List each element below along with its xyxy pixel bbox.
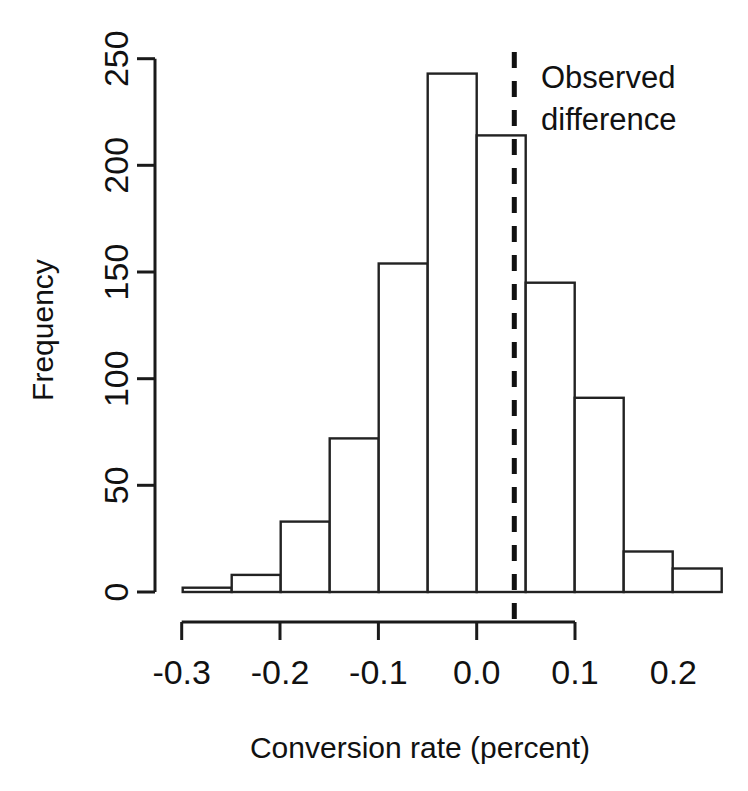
histogram-bar <box>428 74 477 592</box>
histogram-bar <box>624 552 673 593</box>
y-axis: 0 50 100 150 200 250 Frequency <box>26 30 156 601</box>
histogram-bar <box>232 575 281 592</box>
x-axis-title: Conversion rate (percent) <box>250 731 590 764</box>
histogram-bar <box>575 398 624 592</box>
observed-difference-label: Observed difference <box>541 60 677 137</box>
x-axis: -0.3 -0.2 -0.1 0.0 0.1 0.2 Conversion ra… <box>152 622 697 764</box>
x-tick-label: 0.2 <box>650 653 697 691</box>
y-tick-label: 250 <box>97 30 135 87</box>
histogram-bar <box>526 283 575 592</box>
histogram-figure: 0 50 100 150 200 250 Frequency -0.3 -0.2… <box>0 0 748 791</box>
annotation-line-1: Observed <box>541 60 675 95</box>
y-axis-title: Frequency <box>26 259 59 401</box>
x-tick-label: -0.1 <box>349 653 408 691</box>
x-tick-label: -0.2 <box>251 653 310 691</box>
y-tick-label: 200 <box>97 137 135 194</box>
histogram-bar <box>330 438 379 592</box>
y-tick-label: 100 <box>97 350 135 407</box>
y-tick-label: 150 <box>97 244 135 301</box>
x-tick-label: 0.1 <box>551 653 598 691</box>
chart-canvas: 0 50 100 150 200 250 Frequency -0.3 -0.2… <box>0 0 748 791</box>
histogram-bar <box>673 569 722 593</box>
x-tick-label: -0.3 <box>152 653 211 691</box>
histogram-bar <box>281 522 330 592</box>
histogram-bar <box>477 135 526 592</box>
histogram-bar <box>183 588 232 592</box>
histogram-bars <box>183 74 722 592</box>
annotation-line-2: difference <box>541 102 677 137</box>
x-tick-label: 0.0 <box>453 653 500 691</box>
histogram-bar <box>379 264 428 593</box>
y-tick-label: 0 <box>97 583 135 602</box>
y-tick-label: 50 <box>97 466 135 504</box>
